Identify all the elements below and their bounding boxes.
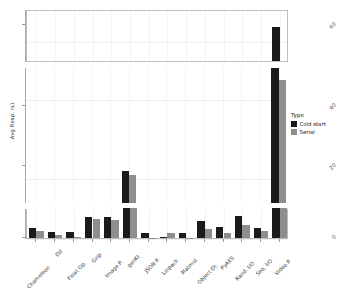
legend-label-cold-start: Cold start <box>300 121 326 127</box>
x-tick-mark <box>241 239 242 242</box>
grid-line-vertical <box>167 11 168 61</box>
grid-line-vertical <box>54 68 55 203</box>
bar-cold-matmul <box>179 233 186 238</box>
y-tick-mark-0 <box>22 237 25 238</box>
grid-line-vertical <box>242 11 243 61</box>
x-tick-mark <box>110 239 111 242</box>
y-tick-label-20: 20 <box>317 162 337 182</box>
grid-line-vertical <box>224 11 225 61</box>
chart-panel-bottom <box>26 209 288 239</box>
legend: Type Cold start Serial <box>291 112 335 137</box>
x-tick-mark <box>35 239 36 242</box>
grid-line-vertical <box>130 11 131 61</box>
bar-serial-dd <box>55 235 62 238</box>
chart-panel-middle <box>26 68 288 203</box>
bar-serial-video-p <box>280 208 287 238</box>
grid-line-vertical <box>186 11 187 61</box>
x-tick-mark <box>260 239 261 242</box>
bar-cold-video-p <box>272 208 279 238</box>
grid-line-vertical <box>149 11 150 61</box>
x-tick-mark <box>185 239 186 242</box>
grid-line-vertical <box>92 68 93 203</box>
y-tick-label-0: 0 <box>317 234 337 254</box>
bar-cold-image-p <box>104 217 111 239</box>
x-tick-label-json-p: JSON P. <box>156 243 174 261</box>
bar-serial-pyaes <box>224 233 231 239</box>
x-tick-mark <box>166 239 167 242</box>
legend-label-serial: Serial <box>300 129 315 135</box>
grid-line-vertical <box>280 11 281 61</box>
legend-item-serial[interactable]: Serial <box>291 129 335 135</box>
bar-serial-float-op <box>74 237 81 238</box>
chart-panel-top <box>26 10 288 62</box>
grid-line <box>26 179 288 180</box>
grid-line-vertical <box>186 209 187 238</box>
bar-cold-genki <box>123 208 130 238</box>
grid-line-vertical <box>35 68 36 203</box>
bar-cold-gzip <box>85 217 92 238</box>
bar-serial-rand-i-o <box>242 225 249 238</box>
x-tick-mark <box>204 239 205 242</box>
bar-serial-chameleon <box>36 231 43 238</box>
bar-serial-genki <box>130 208 137 238</box>
bar-cold-video-p <box>271 68 278 203</box>
bar-serial-seq-i-o <box>261 231 268 239</box>
bar-cold-rand-i-o <box>235 216 242 238</box>
grid-line-vertical <box>74 209 75 238</box>
bar-cold-json-p <box>141 233 148 239</box>
bar-serial-matmul <box>186 238 193 239</box>
y-tick-label-60: 60 <box>317 21 337 41</box>
bar-cold-linpack <box>160 237 167 238</box>
grid-line-vertical <box>36 11 37 61</box>
grid-line-vertical <box>204 68 205 203</box>
grid-line <box>27 42 287 43</box>
grid-line-vertical <box>185 68 186 203</box>
x-tick-mark <box>54 239 55 242</box>
grid-line-vertical <box>166 68 167 203</box>
bar-cold-pyaes <box>216 227 223 239</box>
x-tick-label-genki: genKI <box>136 243 151 258</box>
bar-cold-dd <box>48 232 55 238</box>
bar-serial-gzip <box>93 219 100 239</box>
x-tick-mark <box>129 239 130 242</box>
grid-line-vertical <box>241 68 242 203</box>
y-tick-mark-20 <box>22 165 25 166</box>
grid-line-vertical <box>205 11 206 61</box>
grid-line-vertical <box>110 68 111 203</box>
bar-serial-object-dt <box>205 229 212 239</box>
grid-line <box>26 100 288 101</box>
y-tick-mark-40 <box>22 105 25 106</box>
bar-serial-genki <box>129 175 136 203</box>
grid-line-vertical <box>55 209 56 238</box>
bar-cold-seq-i-o <box>254 228 261 239</box>
bar-cold-chameleon <box>29 228 36 239</box>
bar-cold-float-op <box>66 232 73 239</box>
grid-line-vertical <box>93 11 94 61</box>
grid-line-vertical <box>223 68 224 203</box>
bar-serial-json-p <box>149 238 156 239</box>
grid-line-vertical <box>55 11 56 61</box>
bar-cold-genki <box>122 171 129 203</box>
bar-cold-video-p <box>272 27 279 61</box>
bar-cold-object-dt <box>197 221 204 238</box>
x-tick-mark <box>279 239 280 242</box>
x-tick-mark <box>92 239 93 242</box>
legend-swatch-cold-start <box>291 121 297 127</box>
x-tick-mark <box>73 239 74 242</box>
grid-line-vertical <box>111 11 112 61</box>
x-axis-labels: ChameleonDdFloat Op.GzipImage P.genKIJSO… <box>26 239 288 286</box>
x-tick-label-video-p: Video P. <box>288 243 307 262</box>
y-tick-mark-60 <box>22 24 25 25</box>
grid-line-vertical <box>74 11 75 61</box>
grid-line-vertical <box>73 68 74 203</box>
x-tick-mark <box>148 239 149 242</box>
x-tick-label-matmul: Matmul <box>194 243 212 261</box>
bar-serial-video-p <box>279 80 286 203</box>
bar-serial-image-p <box>111 220 118 238</box>
legend-title: Type <box>291 112 335 118</box>
grid-line-vertical <box>149 209 150 238</box>
grid-line-vertical <box>261 11 262 61</box>
grid-line-vertical <box>260 68 261 203</box>
legend-item-cold-start[interactable]: Cold start <box>291 121 335 127</box>
